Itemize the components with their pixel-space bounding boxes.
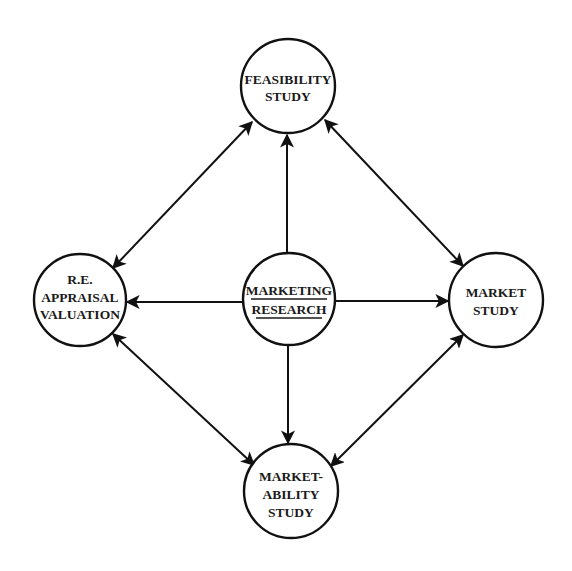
relationship-diagram: FEASIBILITY STUDY R.E. APPRAISAL VALUATI…: [0, 0, 572, 571]
node-label-line: MARKET: [466, 285, 527, 300]
node-label-line: R.E.: [67, 272, 93, 287]
node-marketability-study: MARKET- ABILITY STUDY: [244, 444, 338, 538]
node-market-study: MARKET STUDY: [449, 253, 543, 347]
node-label-line: STUDY: [265, 89, 311, 104]
node-label-line: VALUATION: [40, 307, 120, 322]
edge-feasibility-market-study: [325, 120, 463, 266]
node-re-appraisal-valuation: R.E. APPRAISAL VALUATION: [34, 254, 126, 346]
node-marketing-research: MARKETING RESEARCH: [243, 253, 335, 345]
node-label-line: MARKET-: [259, 469, 323, 484]
node-label-line: MARKETING: [246, 283, 333, 298]
node-label-line: RESEARCH: [251, 302, 327, 317]
edge-appraisal-marketability: [113, 334, 254, 465]
node-label-line: FEASIBILITY: [244, 72, 331, 87]
edge-feasibility-appraisal: [113, 122, 252, 268]
node-label-line: ABILITY: [262, 487, 319, 502]
node-label-line: STUDY: [473, 303, 519, 318]
node-label-line: STUDY: [268, 505, 314, 520]
node-label-line: APPRAISAL: [41, 290, 118, 305]
node-feasibility-study: FEASIBILITY STUDY: [241, 39, 335, 133]
edge-market-study-marketability: [331, 335, 463, 466]
